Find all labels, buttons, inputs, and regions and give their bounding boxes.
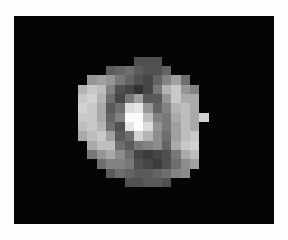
image-pixel — [106, 85, 115, 94]
image-pixel — [153, 57, 162, 66]
image-pixel — [87, 122, 96, 131]
image-pixel — [115, 141, 124, 150]
image-pixel — [87, 94, 96, 103]
image-pixel — [125, 159, 134, 168]
image-pixel — [143, 131, 152, 140]
image-pixel — [143, 85, 152, 94]
image-pixel — [115, 150, 124, 159]
image-pixel — [143, 122, 152, 131]
image-pixel — [106, 94, 115, 103]
image-pixel — [134, 150, 143, 159]
image-pixel — [181, 141, 190, 150]
image-pixel — [143, 57, 152, 66]
image-pixel — [190, 94, 199, 103]
image-pixel — [125, 66, 134, 75]
image-pixel — [181, 85, 190, 94]
image-pixel — [125, 169, 134, 178]
image-pixel — [190, 122, 199, 131]
pixel-grid-galaxy-ring — [78, 38, 218, 188]
image-pixel — [134, 141, 143, 150]
image-pixel — [125, 122, 134, 131]
image-pixel — [134, 75, 143, 84]
image-pixel — [153, 85, 162, 94]
image-pixel — [87, 150, 96, 159]
image-pixel — [125, 103, 134, 112]
image-pixel — [162, 103, 171, 112]
image-pixel — [153, 178, 162, 187]
image-pixel — [143, 94, 152, 103]
image-pixel — [97, 131, 106, 140]
image-pixel — [87, 85, 96, 94]
image-pixel — [134, 131, 143, 140]
image-pixel — [78, 113, 87, 122]
image-pixel — [87, 131, 96, 140]
image-pixel — [171, 94, 180, 103]
image-pixel — [106, 159, 115, 168]
image-pixel — [143, 159, 152, 168]
image-pixel — [181, 169, 190, 178]
image-pixel — [143, 150, 152, 159]
image-pixel — [78, 94, 87, 103]
image-pixel — [171, 113, 180, 122]
image-pixel — [181, 150, 190, 159]
image-pixel — [97, 94, 106, 103]
image-pixel — [153, 159, 162, 168]
image-pixel — [125, 75, 134, 84]
image-pixel — [162, 178, 171, 187]
image-pixel — [87, 113, 96, 122]
image-pixel — [125, 178, 134, 187]
image-pixel — [125, 94, 134, 103]
image-pixel — [106, 150, 115, 159]
image-pixel — [87, 141, 96, 150]
image-pixel — [181, 131, 190, 140]
image-pixel — [97, 103, 106, 112]
image-pixel — [153, 113, 162, 122]
image-pixel — [181, 159, 190, 168]
image-pixel — [134, 85, 143, 94]
image-pixel — [78, 103, 87, 112]
image-pixel — [181, 103, 190, 112]
image-pixel — [97, 159, 106, 168]
image-pixel — [106, 122, 115, 131]
image-pixel — [162, 169, 171, 178]
image-pixel — [181, 94, 190, 103]
image-pixel — [162, 150, 171, 159]
image-pixel — [153, 169, 162, 178]
image-pixel — [171, 141, 180, 150]
image-pixel — [97, 122, 106, 131]
image-pixel — [153, 66, 162, 75]
image-pixel — [134, 169, 143, 178]
image-pixel — [199, 113, 208, 122]
image-pixel — [143, 178, 152, 187]
image-pixel — [97, 141, 106, 150]
image-pixel — [153, 150, 162, 159]
image-pixel — [143, 141, 152, 150]
image-pixel — [134, 66, 143, 75]
image-pixel — [143, 103, 152, 112]
image-pixel — [106, 113, 115, 122]
image-pixel — [125, 113, 134, 122]
image-pixel — [106, 169, 115, 178]
image-pixel — [97, 85, 106, 94]
image-pixel — [190, 141, 199, 150]
image-pixel — [134, 57, 143, 66]
image-pixel — [171, 103, 180, 112]
image-pixel — [115, 131, 124, 140]
image-pixel — [97, 75, 106, 84]
image-pixel — [125, 141, 134, 150]
image-pixel — [162, 122, 171, 131]
image-pixel — [190, 85, 199, 94]
image-pixel — [97, 113, 106, 122]
image-pixel — [171, 75, 180, 84]
image-pixel — [153, 75, 162, 84]
image-pixel — [162, 113, 171, 122]
image-pixel — [190, 150, 199, 159]
image-pixel — [171, 150, 180, 159]
image-pixel — [134, 113, 143, 122]
image-pixel — [143, 113, 152, 122]
image-pixel — [153, 94, 162, 103]
image-pixel — [125, 85, 134, 94]
image-pixel — [115, 75, 124, 84]
image-pixel — [153, 141, 162, 150]
image-pixel — [171, 131, 180, 140]
